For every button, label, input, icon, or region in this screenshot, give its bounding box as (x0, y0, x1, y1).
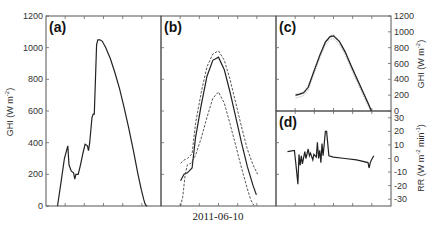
svg-text:800: 800 (28, 74, 43, 84)
panel-b-frame (161, 16, 276, 206)
svg-text:1000: 1000 (23, 43, 43, 53)
svg-text:-20: -20 (394, 181, 407, 191)
panel-a-curves (58, 40, 148, 206)
panel-b-label: (b) (164, 19, 182, 35)
ensemble-member-line (296, 36, 372, 111)
svg-text:200: 200 (28, 169, 43, 179)
ensemble-line (296, 36, 372, 111)
svg-text:200: 200 (394, 90, 409, 100)
panel-c-label: (c) (279, 19, 296, 35)
svg-text:10: 10 (394, 140, 404, 150)
left-y-axis-title: GHI (W m-2) (4, 88, 15, 136)
svg-text:1200: 1200 (394, 11, 414, 21)
upper-bound-line (181, 51, 258, 175)
svg-text:0: 0 (38, 201, 43, 211)
svg-text:20: 20 (394, 126, 404, 136)
svg-text:400: 400 (28, 138, 43, 148)
panel-a-label: (a) (49, 19, 66, 35)
panel-d-label: (d) (279, 114, 297, 130)
ensemble-member-line (296, 35, 372, 110)
svg-text:30: 30 (394, 113, 404, 123)
forecast-line (181, 57, 257, 195)
panel-c-y-axis-title: GHI (W m-2) (415, 40, 426, 88)
panel-d-y-axis-title: RR (W m-2 min-1) (415, 124, 426, 192)
left-y-axis: 020040060080010001200 (23, 11, 49, 211)
GHI-measured-line (58, 40, 148, 206)
panel-c-curves (296, 35, 372, 111)
panel-b-curves (181, 51, 258, 206)
figure: 020040060080010001200 GHI (W m-2) (a) (b… (0, 0, 439, 227)
lower-bound-line (181, 92, 256, 206)
x-axis-date-label: 2011-06-10 (193, 210, 244, 222)
ensemble-member-line (296, 36, 372, 111)
panel-c-right-y-axis: 020040060080010001200 (388, 11, 414, 116)
ramp-rate-line (288, 131, 374, 184)
panel-d-curves (288, 131, 374, 184)
svg-text:400: 400 (394, 74, 409, 84)
svg-text:600: 600 (28, 106, 43, 116)
svg-text:0: 0 (394, 154, 399, 164)
ensemble-member-line (296, 39, 372, 111)
svg-text:800: 800 (394, 43, 409, 53)
svg-text:1200: 1200 (23, 11, 43, 21)
svg-text:-10: -10 (394, 167, 407, 177)
svg-text:600: 600 (394, 59, 409, 69)
svg-text:1000: 1000 (394, 27, 414, 37)
svg-text:-30: -30 (394, 194, 407, 204)
